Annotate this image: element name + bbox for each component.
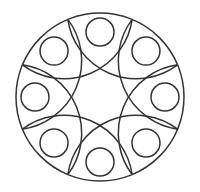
small-circle — [40, 129, 68, 157]
interlaced-arcs-group — [22, 19, 177, 174]
small-circle — [21, 83, 49, 111]
small-circles-group — [21, 18, 179, 176]
mandala-figure — [0, 0, 200, 192]
outer-circle — [16, 13, 184, 181]
small-circle — [151, 83, 179, 111]
small-circle — [40, 37, 68, 65]
small-circle — [132, 37, 160, 65]
small-circle — [132, 129, 160, 157]
small-circle — [86, 148, 114, 176]
small-circle — [86, 18, 114, 46]
mandala-svg — [0, 0, 200, 192]
